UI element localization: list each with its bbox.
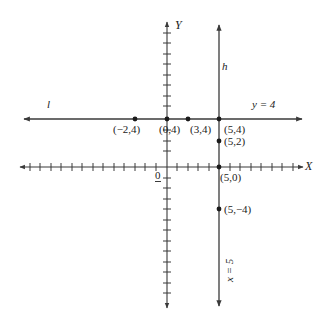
- equation-label-x-equals-5: x = 5: [224, 259, 235, 282]
- line-l-label: l: [47, 99, 50, 110]
- point-marker: [165, 117, 170, 122]
- y-axis: [163, 22, 171, 308]
- y-axis-label: Y: [175, 19, 182, 31]
- point-marker: [186, 117, 191, 122]
- x-axis: [20, 163, 303, 171]
- x-axis-label: X: [305, 160, 312, 172]
- point-label-5-2: (5,2): [224, 136, 245, 147]
- point-label-3-4: (3,4): [190, 124, 211, 135]
- coordinate-plane-canvas: [0, 0, 323, 327]
- point-marker: [217, 139, 222, 144]
- point-label-neg2-4: (−2,4): [113, 124, 140, 135]
- point-marker: [217, 207, 222, 212]
- equation-label-y-equals-4: y = 4: [252, 99, 275, 110]
- line-h-label: h: [222, 61, 228, 72]
- point-marker: [217, 165, 222, 170]
- point-marker: [217, 117, 222, 122]
- origin-label: 0: [155, 170, 161, 182]
- point-label-0-4: (0,4): [159, 124, 180, 135]
- point-label-5-4: (5,4): [224, 124, 245, 135]
- point-label-5-0: (5,0): [220, 172, 241, 183]
- point-marker: [133, 117, 138, 122]
- coordinate-plane-figure: Y X 0 l h y = 4 x = 5 (−2,4) (0,4) (3,4)…: [0, 0, 323, 327]
- point-label-5-neg4: (5,−4): [224, 204, 251, 215]
